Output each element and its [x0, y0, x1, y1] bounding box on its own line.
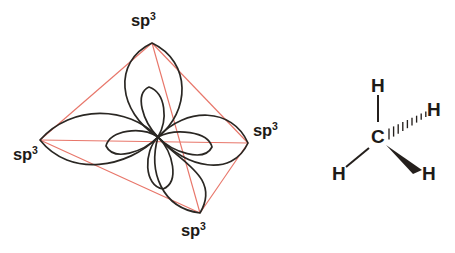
orbital-label-left: sp3: [13, 146, 38, 163]
tetra-edge-left-bottom: [40, 140, 200, 213]
orbital-label-top: sp3: [131, 12, 156, 29]
tetra-edge-left-right: [40, 140, 248, 143]
orbital-label-left-text: sp: [13, 145, 32, 163]
orbital-label-bottom-sup: 3: [200, 220, 206, 232]
tetrahedron-wireframe: [40, 43, 248, 213]
orbital-backlobe-right: [158, 132, 212, 155]
bond-c-h-lower-right-wedge: [386, 145, 422, 174]
bond-c-h-right-hashed: [389, 111, 426, 139]
orbital-lobe-bottom: [155, 137, 206, 213]
methane-h-right-label: H: [427, 100, 441, 119]
orbital-label-top-text: sp: [131, 11, 150, 29]
orbital-back-lobes: [106, 87, 212, 189]
methane-h-lower-right-label: H: [422, 164, 436, 183]
chemistry-figure: sp3 sp3 sp3 sp3 H H H H: [0, 0, 455, 253]
methane-carbon-label: C: [371, 127, 385, 146]
methane-h-lower-left-label: H: [332, 164, 346, 183]
bond-c-h-lower-left: [346, 148, 369, 167]
methane-h-top-label: H: [371, 76, 385, 95]
orbital-label-bottom: sp3: [181, 222, 206, 239]
orbital-label-bottom-text: sp: [181, 221, 200, 239]
orbital-backlobe-down: [148, 137, 173, 189]
orbital-label-top-sup: 3: [150, 10, 156, 22]
orbital-label-right: sp3: [253, 122, 278, 139]
orbital-label-right-sup: 3: [272, 120, 278, 132]
orbital-label-right-text: sp: [253, 121, 272, 139]
orbital-label-left-sup: 3: [32, 144, 38, 156]
orbital-backlobe-up: [141, 87, 164, 137]
